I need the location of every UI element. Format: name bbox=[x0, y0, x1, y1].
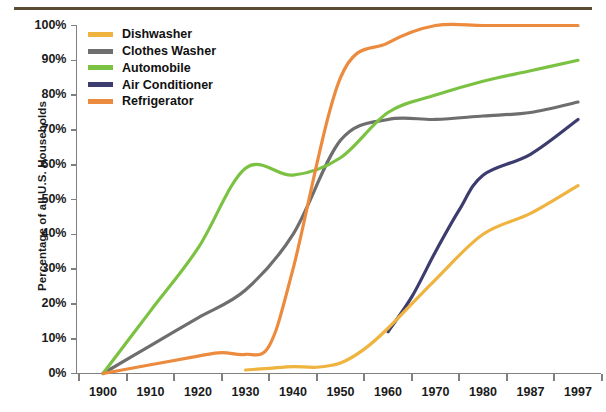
y-tick-label: 30% bbox=[23, 261, 67, 275]
y-axis-ticks bbox=[71, 26, 77, 374]
legend-label: Clothes Washer bbox=[122, 45, 216, 58]
legend-label: Air Conditioner bbox=[122, 79, 213, 92]
legend-swatch-icon bbox=[88, 49, 113, 54]
y-tick-label: 10% bbox=[23, 331, 67, 345]
y-tick-label: 60% bbox=[23, 157, 67, 171]
y-tick-label: 80% bbox=[23, 87, 67, 101]
legend-swatch-icon bbox=[88, 65, 113, 70]
legend-label: Automobile bbox=[122, 62, 191, 75]
y-tick-label: 90% bbox=[23, 52, 67, 66]
legend-item: Refrigerator bbox=[88, 93, 216, 110]
legend-swatch-icon bbox=[88, 99, 113, 104]
chart-figure: Percentage of all U.S. Households 0%10%2… bbox=[0, 0, 606, 412]
y-tick-label: 40% bbox=[23, 226, 67, 240]
legend-swatch-icon bbox=[88, 82, 113, 87]
y-tick-label: 20% bbox=[23, 296, 67, 310]
chart-legend: DishwasherClothes WasherAutomobileAir Co… bbox=[88, 26, 216, 110]
legend-item: Clothes Washer bbox=[88, 43, 216, 60]
x-tick-label: 1997 bbox=[548, 385, 606, 399]
y-tick-label: 0% bbox=[23, 366, 67, 380]
legend-item: Dishwasher bbox=[88, 26, 216, 43]
y-tick-label: 70% bbox=[23, 122, 67, 136]
y-tick-label: 50% bbox=[23, 192, 67, 206]
series-line-dishwasher bbox=[246, 186, 579, 370]
legend-item: Air Conditioner bbox=[88, 76, 216, 93]
x-axis-ticks bbox=[79, 374, 602, 381]
series-line-clothes-washer bbox=[103, 102, 578, 373]
legend-swatch-icon bbox=[88, 32, 113, 37]
legend-label: Refrigerator bbox=[122, 95, 194, 108]
y-tick-label: 100% bbox=[23, 18, 67, 32]
legend-label: Dishwasher bbox=[122, 28, 192, 41]
legend-item: Automobile bbox=[88, 60, 216, 77]
